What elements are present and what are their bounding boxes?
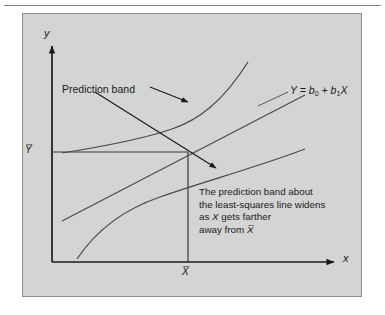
caption-line-4-xbar: X̅ (247, 224, 254, 235)
y-axis-label: y (44, 26, 50, 40)
y-mean-tick-label: Y̅ (25, 144, 32, 157)
equation-b0-subscript: 0 (315, 90, 319, 98)
equation-equals: = (297, 84, 309, 96)
explanatory-caption: The prediction band about the least-squa… (199, 186, 325, 236)
figure-panel (22, 13, 362, 297)
x-axis-label: x (343, 251, 349, 265)
equation-y-term: Y (290, 84, 297, 96)
caption-line-4-prefix: away from (199, 224, 247, 235)
caption-line-3-prefix: as (199, 211, 212, 222)
prediction-band-callout-label: Prediction band (62, 83, 135, 96)
top-divider-rule (4, 5, 381, 6)
x-mean-tick-label: X̅ (182, 266, 189, 279)
caption-line-3: as X gets farther (199, 211, 325, 224)
figure-page: y x Y̅ X̅ Prediction band Y = b0 + b1X T… (0, 0, 385, 315)
equation-x-term: X (340, 84, 347, 96)
caption-line-2: the least-squares line widens (199, 199, 325, 212)
equation-plus: + (319, 84, 331, 96)
caption-line-1: The prediction band about (199, 186, 325, 199)
caption-line-3-suffix: gets farther (219, 211, 271, 222)
regression-equation-label: Y = b0 + b1X (290, 84, 347, 97)
caption-line-4: away from X̅ (199, 224, 325, 237)
equation-b1-subscript: 1 (336, 90, 340, 98)
equation-b0-term: b (309, 84, 315, 96)
